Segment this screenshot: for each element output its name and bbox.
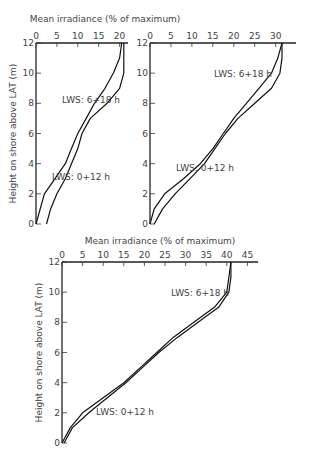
y-tick-label: 4 bbox=[28, 159, 34, 169]
x-tick-label: 5 bbox=[54, 31, 60, 41]
chart-panel-bottom: 051015202530354045024681012Mean irradian… bbox=[34, 236, 258, 448]
x-tick-label: 20 bbox=[139, 250, 151, 260]
y-tick-label: 2 bbox=[28, 189, 34, 199]
y-tick-label: 12 bbox=[23, 38, 34, 48]
y-tick-label: 10 bbox=[49, 287, 61, 297]
x-tick-label: 0 bbox=[59, 250, 65, 260]
annotation-lws-0-12: LWS: 0+12 h bbox=[52, 172, 110, 182]
y-tick-label: 6 bbox=[28, 129, 34, 139]
x-tick-label: 15 bbox=[93, 31, 104, 41]
x-tick-label: 10 bbox=[97, 250, 109, 260]
y-tick-label: 8 bbox=[54, 317, 60, 327]
x-tick-label: 40 bbox=[221, 250, 233, 260]
annotation-lws-6-18: LWS: 6+18 h bbox=[171, 288, 229, 298]
y-tick-label: 4 bbox=[54, 378, 60, 388]
x-tick-label: 25 bbox=[249, 31, 260, 41]
y-tick-label: 0 bbox=[28, 219, 34, 229]
y-tick-label: 6 bbox=[54, 348, 60, 358]
y-tick-label: 2 bbox=[142, 189, 148, 199]
x-tick-label: 10 bbox=[186, 31, 198, 41]
y-tick-label: 10 bbox=[23, 68, 35, 78]
x-tick-label: 25 bbox=[159, 250, 170, 260]
y-tick-label: 2 bbox=[54, 408, 60, 418]
x-tick-label: 5 bbox=[80, 250, 86, 260]
chart-panel-top-right: 051015202530024681012LWS: 6+18 hLWS: 0+1… bbox=[137, 31, 296, 229]
y-tick-label: 10 bbox=[137, 68, 149, 78]
figure: 05101520024681012Mean irradiance (% of m… bbox=[0, 0, 310, 460]
x-tick-label: 35 bbox=[200, 250, 211, 260]
y-tick-label: 8 bbox=[142, 98, 148, 108]
x-tick-label: 15 bbox=[207, 31, 218, 41]
y-tick-label: 6 bbox=[142, 129, 148, 139]
x-tick-label: 0 bbox=[33, 31, 39, 41]
series-line bbox=[47, 43, 124, 224]
x-axis-title: Mean irradiance (% of maximum) bbox=[30, 14, 181, 24]
y-tick-label: 12 bbox=[137, 38, 148, 48]
y-tick-label: 12 bbox=[49, 257, 60, 267]
x-tick-label: 20 bbox=[114, 31, 126, 41]
y-axis-title: Height on shore above LAT (m) bbox=[34, 283, 44, 423]
x-axis-title: Mean irradiance (% of maximum) bbox=[85, 236, 236, 246]
y-tick-label: 0 bbox=[54, 438, 60, 448]
x-tick-label: 0 bbox=[147, 31, 153, 41]
y-tick-label: 4 bbox=[142, 159, 148, 169]
annotation-lws-6-18: LWS: 6+18 h bbox=[214, 69, 272, 79]
series-line bbox=[36, 43, 122, 224]
x-tick-label: 30 bbox=[270, 31, 282, 41]
y-tick-label: 0 bbox=[142, 219, 148, 229]
annotation-lws-0-12: LWS: 0+12 h bbox=[176, 163, 234, 173]
annotation-lws-6-18: LWS: 6+18 h bbox=[62, 95, 120, 105]
y-tick-label: 8 bbox=[28, 98, 34, 108]
x-tick-label: 20 bbox=[228, 31, 240, 41]
x-tick-label: 30 bbox=[180, 250, 192, 260]
annotation-lws-0-12: LWS: 0+12 h bbox=[96, 407, 154, 417]
x-tick-label: 15 bbox=[118, 250, 129, 260]
x-tick-label: 45 bbox=[242, 250, 253, 260]
x-tick-label: 5 bbox=[168, 31, 174, 41]
x-tick-label: 10 bbox=[72, 31, 84, 41]
chart-panel-top-left: 05101520024681012Mean irradiance (% of m… bbox=[8, 14, 180, 229]
y-axis-title: Height on shore above LAT (m) bbox=[8, 64, 18, 204]
